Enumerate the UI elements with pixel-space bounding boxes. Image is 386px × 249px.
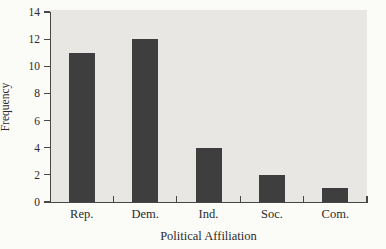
y-tick (44, 174, 50, 175)
bar (259, 175, 285, 202)
y-tick-label: 6 (14, 114, 40, 128)
x-boundary-tick (366, 196, 367, 202)
bar (322, 188, 348, 202)
y-tick (44, 11, 50, 12)
y-tick (44, 201, 50, 202)
x-boundary-tick (176, 196, 177, 202)
x-boundary-tick (303, 196, 304, 202)
y-axis-title: Frequency (0, 67, 13, 147)
x-category-label: Dem. (115, 207, 175, 222)
y-tick-label: 2 (14, 168, 40, 182)
x-category-label: Ind. (179, 207, 239, 222)
y-tick-label: 4 (14, 141, 40, 155)
y-tick-label: 8 (14, 86, 40, 100)
x-category-label: Com. (305, 207, 365, 222)
y-axis-line (50, 12, 51, 202)
x-category-label: Soc. (242, 207, 302, 222)
y-tick-label: 10 (14, 59, 40, 73)
bar (69, 53, 95, 202)
x-boundary-tick (113, 196, 114, 202)
x-boundary-tick (240, 196, 241, 202)
x-category-label: Rep. (52, 207, 112, 222)
bar (132, 39, 158, 202)
y-tick (44, 66, 50, 67)
bar-chart-figure: Frequency Political Affiliation 02468101… (0, 0, 386, 249)
y-tick (44, 93, 50, 94)
y-tick (44, 120, 50, 121)
y-tick (44, 39, 50, 40)
y-tick-label: 14 (14, 5, 40, 19)
bar (196, 148, 222, 202)
y-tick-label: 0 (14, 195, 40, 209)
x-axis-title: Political Affiliation (50, 229, 367, 245)
y-tick-label: 12 (14, 32, 40, 46)
x-axis-line (50, 202, 368, 203)
y-tick (44, 147, 50, 148)
